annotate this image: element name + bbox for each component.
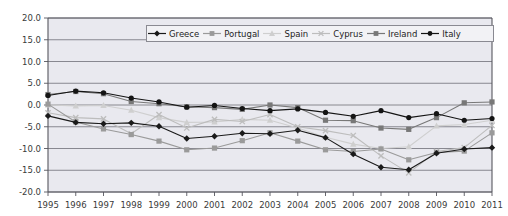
x-tick-label: 2001 xyxy=(204,200,226,210)
x-tick-label: 2004 xyxy=(287,200,309,210)
data-point xyxy=(489,130,494,135)
x-tick-label: 2009 xyxy=(426,200,448,210)
data-point xyxy=(156,139,161,144)
data-point xyxy=(73,88,78,93)
data-point xyxy=(45,102,50,107)
data-point xyxy=(323,118,328,123)
x-tick-label: 2011 xyxy=(481,200,503,210)
legend-item-spain: Spain xyxy=(262,26,311,41)
x-tick-label: 1995 xyxy=(37,200,59,210)
legend-label: Greece xyxy=(167,29,202,39)
legend-label: Portugal xyxy=(222,29,262,39)
legend-label: Italy xyxy=(440,29,463,39)
legend-marker-icon xyxy=(311,29,331,38)
data-point xyxy=(378,108,383,113)
data-point xyxy=(489,99,494,104)
legend-item-portugal: Portugal xyxy=(202,26,262,41)
data-point xyxy=(240,138,245,143)
data-point xyxy=(406,157,411,162)
data-point xyxy=(323,147,328,152)
legend-marker-icon xyxy=(366,29,386,38)
data-point xyxy=(184,147,189,152)
legend-item-ireland: Ireland xyxy=(366,26,420,41)
data-point xyxy=(212,145,217,150)
data-point xyxy=(240,106,245,111)
y-tick-label: 10.0 xyxy=(22,57,41,67)
chart-legend: GreecePortugalSpainCyprusIrelandItaly xyxy=(146,25,494,42)
legend-item-cyprus: Cyprus xyxy=(311,26,366,41)
legend-item-italy: Italy xyxy=(420,26,463,41)
x-tick-label: 2006 xyxy=(342,200,364,210)
x-tick-label: 2008 xyxy=(398,200,420,210)
legend-marker-icon xyxy=(202,29,222,38)
x-tick-label: 1998 xyxy=(120,200,142,210)
data-point xyxy=(129,132,134,137)
legend-marker-icon xyxy=(420,29,440,38)
x-tick-label: 1996 xyxy=(65,200,87,210)
x-tick-label: 2005 xyxy=(315,200,337,210)
data-point xyxy=(434,111,439,116)
data-point xyxy=(323,110,328,115)
y-tick-label: 5.0 xyxy=(27,78,41,88)
y-tick-label: -10.0 xyxy=(19,144,41,154)
y-tick-label: 20.0 xyxy=(22,13,41,23)
data-point xyxy=(351,114,356,119)
legend-marker-icon xyxy=(262,29,282,38)
data-point xyxy=(45,93,50,98)
y-tick-label: 15.0 xyxy=(22,35,41,45)
x-tick-label: 2010 xyxy=(453,200,475,210)
data-point xyxy=(406,127,411,132)
line-chart: 20.015.010.05.00.0-5.0-10.0-15.0-20.0199… xyxy=(0,0,508,216)
data-point xyxy=(184,105,189,110)
legend-marker-icon xyxy=(147,29,167,38)
data-point xyxy=(406,115,411,120)
y-tick-label: -15.0 xyxy=(19,165,41,175)
data-point xyxy=(129,95,134,100)
data-point xyxy=(101,126,106,131)
x-tick-label: 2003 xyxy=(259,200,281,210)
data-point xyxy=(267,108,272,113)
data-point xyxy=(295,139,300,144)
data-point xyxy=(295,106,300,111)
y-tick-label: 0.0 xyxy=(27,100,41,110)
y-tick-label: -5.0 xyxy=(24,122,41,132)
data-point xyxy=(378,125,383,130)
legend-label: Spain xyxy=(282,29,311,39)
data-point xyxy=(267,102,272,107)
data-point xyxy=(212,103,217,108)
x-tick-label: 2000 xyxy=(176,200,198,210)
x-tick-label: 2007 xyxy=(370,200,392,210)
y-tick-label: -20.0 xyxy=(19,187,41,197)
x-tick-label: 1999 xyxy=(148,200,170,210)
x-tick-label: 1997 xyxy=(93,200,115,210)
data-point xyxy=(156,99,161,104)
data-point xyxy=(489,116,494,121)
data-point xyxy=(378,146,383,151)
data-point xyxy=(462,118,467,123)
x-tick-label: 2002 xyxy=(231,200,253,210)
legend-label: Cyprus xyxy=(331,29,366,39)
legend-item-greece: Greece xyxy=(147,26,202,41)
data-point xyxy=(462,100,467,105)
data-point xyxy=(101,90,106,95)
legend-label: Ireland xyxy=(386,29,420,39)
